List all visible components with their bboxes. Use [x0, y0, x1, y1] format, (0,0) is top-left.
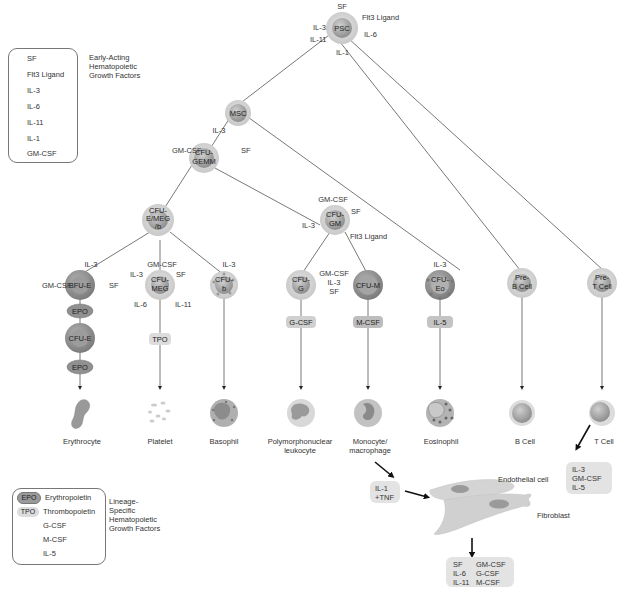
cell-label-pmn: Polymorphonuclear: [268, 437, 333, 446]
node-label: MSC: [230, 109, 247, 118]
factor-label: GM-CSF: [42, 281, 72, 290]
node-pre-t: Pre- T Cell: [587, 268, 617, 298]
factor-text: M-CSF: [476, 578, 500, 587]
factor-label: EPO: [72, 363, 88, 372]
node-msc: MSC: [225, 100, 251, 126]
node-label: BFU-E: [69, 281, 92, 290]
factor-label: Flt3 Ligand: [362, 13, 399, 22]
factor-label: IL-3: [213, 126, 226, 135]
node-bfu-e: BFU-E IL-3 GM-CSF SF: [42, 260, 119, 300]
epo-factor-2: EPO: [67, 360, 93, 374]
monocyte-factor-box: IL-1 +TNF: [370, 481, 400, 503]
factor-label: IL-6: [134, 300, 147, 309]
epo-factor-1: EPO: [67, 304, 93, 318]
factor-label: IL-3: [434, 260, 447, 269]
factor-label: GM-CSF: [172, 146, 202, 155]
node-psc: PSC SF Flt3 Ligand IL-3 IL-11 IL-6 IL-1: [310, 2, 399, 57]
mcsf-factor: M-CSF: [353, 316, 383, 328]
cell-label-t-cell: T Cell: [594, 437, 614, 446]
node-label: G: [298, 284, 304, 293]
diagram-canvas: PSC SF Flt3 Ligand IL-3 IL-11 IL-6 IL-1 …: [0, 0, 622, 593]
node-label: B Cell: [512, 282, 532, 291]
cytokine-to-stroma-arrow: [405, 491, 427, 497]
node-label: CFU-: [151, 275, 169, 284]
node-cfu-m: CFU-M GM-CSF IL-3 SF: [319, 269, 383, 300]
node-cfu-e: CFU-E: [65, 323, 95, 353]
node-label: CFU-: [292, 275, 310, 284]
factor-label: SF: [109, 281, 119, 290]
factor-label: IL-5: [434, 318, 447, 327]
fibroblast-label: Fibroblast: [537, 511, 571, 520]
cell-label-basophil: Basophil: [210, 437, 239, 446]
node-label: T Cell: [592, 282, 612, 291]
node-label: PSC: [334, 24, 350, 33]
node-label: CFU-E: [69, 334, 92, 343]
node-label: CFU-: [431, 275, 449, 284]
node-cfu-g: CFU- G: [286, 270, 316, 300]
platelet-icon: [148, 402, 171, 423]
node-label: CFU-M: [356, 281, 380, 290]
factor-label: GM-CSF: [147, 260, 177, 269]
factor-label: IL-11: [310, 35, 327, 44]
node-label: CFU-: [215, 275, 233, 284]
t-cell-icon: [589, 400, 615, 426]
node-cfu-eo: CFU- Eo IL-3: [425, 260, 455, 300]
t-cell-secretion-arrow: [577, 425, 590, 448]
factor-label: SF: [329, 287, 339, 296]
node-cfu-gm: CFU- GM GM-CSF SF IL-3 Flt3 Ligand: [302, 195, 387, 241]
tpo-factor: TPO: [149, 333, 171, 345]
factor-label: IL-3: [85, 260, 98, 269]
factor-label: GM-CSF: [318, 195, 348, 204]
node-cfu-b: CFU- b IL-3: [210, 260, 238, 299]
endothelial-cell-label: Endothelial cell: [498, 475, 549, 484]
factor-label: SF: [241, 146, 251, 155]
factor-label: EPO: [72, 307, 88, 316]
node-label: MEG: [151, 284, 168, 293]
node-cfu-gemm: CFU- GEMM IL-3 GM-CSF SF: [172, 126, 251, 173]
basophil-icon: [210, 399, 238, 427]
factor-text: IL-6: [453, 569, 466, 578]
node-pre-b: Pre- B Cell: [507, 268, 537, 298]
factor-label: SF: [337, 2, 347, 11]
factor-label: M-CSF: [356, 318, 380, 327]
factor-text: IL-11: [453, 578, 470, 587]
factor-label: TPO: [152, 335, 168, 344]
node-label: Pre-: [515, 273, 530, 282]
factor-text: +TNF: [375, 493, 394, 502]
factor-text: GM-CSF: [572, 474, 602, 483]
node-label: /b: [155, 222, 161, 231]
factor-label: IL-3: [223, 260, 236, 269]
factor-label: SF: [176, 270, 186, 279]
factor-text: SF: [453, 560, 463, 569]
b-cell-icon: [509, 400, 535, 426]
factor-label: Flt3 Ligand: [350, 232, 387, 241]
pmn-icon: [287, 399, 315, 427]
node-cfu-e-meg-b: CFU- E/MEG /b: [142, 204, 174, 236]
node-cfu-meg: CFU- MEG GM-CSF IL-3 SF IL-6 IL-11: [130, 260, 192, 309]
factor-label: IL-6: [364, 30, 377, 39]
factor-text: G-CSF: [476, 569, 499, 578]
stromal-factor-box: SF GM-CSF IL-6 G-CSF IL-11 M-CSF: [446, 557, 514, 587]
eosinophil-icon: [426, 399, 454, 427]
cell-label-b-cell: B Cell: [515, 437, 535, 446]
cell-label-pmn: leukocyte: [284, 446, 316, 455]
cell-label-eosinophil: Eosinophil: [424, 437, 459, 446]
node-label: Eo: [435, 284, 444, 293]
cell-label-monocyte: macrophage: [349, 446, 391, 455]
factor-text: GM-CSF: [476, 560, 506, 569]
il5-factor: IL-5: [427, 316, 453, 328]
factor-label: GM-CSF: [319, 269, 349, 278]
factor-label: IL-11: [175, 300, 192, 309]
node-label: GM: [329, 219, 341, 228]
cell-label-monocyte: Monocyte/: [353, 437, 389, 446]
erythrocyte-icon: [72, 400, 90, 429]
node-label: CFU-: [326, 210, 344, 219]
factor-label: G-CSF: [289, 318, 313, 327]
factor-label: IL-3: [328, 278, 341, 287]
monocyte-secretion-arrow: [375, 462, 392, 476]
factor-label: SF: [351, 207, 361, 216]
cell-label-platelet: Platelet: [147, 437, 173, 446]
hematopoiesis-diagram: SF Flt3 Ligand IL-3 IL-6 IL-11 IL-1 GM-C…: [0, 0, 622, 593]
gcsf-factor: G-CSF: [286, 316, 316, 328]
factor-label: IL-3: [130, 270, 143, 279]
